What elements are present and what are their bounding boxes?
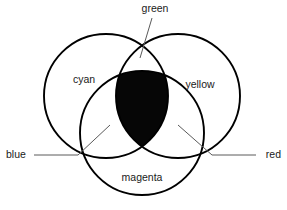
label-blue: blue <box>6 148 26 160</box>
venn-diagram-svg: cyan yellow magenta green blue red <box>0 0 287 210</box>
label-cyan: cyan <box>73 73 95 85</box>
venn-diagram-canvas: cyan yellow magenta green blue red <box>0 0 287 210</box>
label-yellow: yellow <box>185 78 215 90</box>
label-magenta: magenta <box>122 171 163 183</box>
label-red: red <box>266 148 281 160</box>
label-green: green <box>142 2 169 14</box>
